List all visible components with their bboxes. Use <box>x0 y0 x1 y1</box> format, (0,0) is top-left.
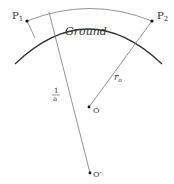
signal-path-arc <box>27 9 152 22</box>
o-prime-label: O′ <box>93 170 102 179</box>
fraction-numerator: 1 <box>54 87 58 95</box>
fraction-denominator: a <box>53 95 57 103</box>
p1-height-line <box>27 21 35 38</box>
p1-point <box>25 19 28 22</box>
p1-label: P1 <box>12 10 23 23</box>
ground-diagram: P1 P2 Ground ro O O′ 1 a <box>0 0 174 184</box>
ground-label: Ground <box>65 25 107 38</box>
o-prime-point <box>89 172 92 175</box>
o-label: O <box>93 106 100 115</box>
p2-label: P2 <box>157 10 168 23</box>
o-point <box>88 106 91 109</box>
p2-point <box>150 19 153 22</box>
r0-label: ro <box>114 72 122 83</box>
